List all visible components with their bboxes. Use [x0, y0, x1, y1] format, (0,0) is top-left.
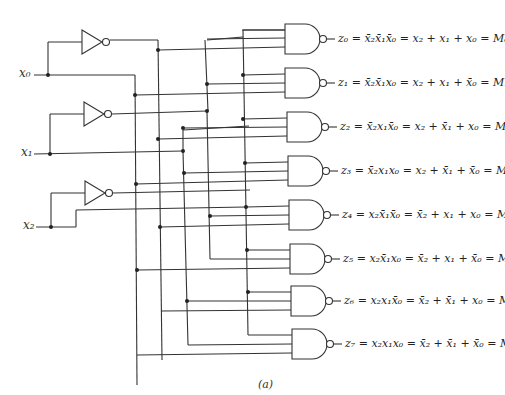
output-equation-z2: z₂ = x̄₂x₁x̄₀ = x₂ + x̄₁ + x₀ = M₂ [340, 121, 505, 133]
inverter-x1 [84, 102, 112, 126]
nand-gate-5 [290, 244, 340, 274]
input-label-x0: x₀ [19, 66, 31, 80]
bus-rails [183, 30, 285, 345]
input-x1-wiring [34, 114, 183, 154]
output-equation-z5: z₅ = x₂x̄₁x₀ = x̄₂ + x₁ + x̄₀ = M₅ [343, 253, 505, 265]
input-x2-wiring [36, 193, 246, 227]
nand-gate-6 [291, 286, 341, 316]
output-equation-z1: z₁ = x̄₂x̄₁x₀ = x₂ + x₁ + x̄₀ = M₁ [338, 77, 505, 89]
nand-gate-1 [285, 68, 335, 98]
nand-gate-4 [289, 200, 339, 230]
nand-gate-0 [285, 24, 335, 54]
output-equation-z6: z₆ = x₂x₁x̄₀ = x̄₂ + x̄₁ + x₀ = M₆ [344, 295, 505, 307]
decoder-circuit [0, 0, 505, 395]
junction-dots [46, 48, 250, 303]
input-label-x2: x₂ [23, 218, 35, 232]
nand-gate-2 [287, 112, 337, 142]
output-equation-z0: z₀ = x̄₂x̄₁x̄₀ = x₂ + x₁ + x₀ = M₀ [338, 33, 505, 45]
figure-caption: (a) [258, 378, 273, 391]
output-equation-z3: z₃ = x̄₂x₁x₀ = x₂ + x̄₁ + x̄₀ = M₃ [341, 165, 505, 177]
inverter-x2 [85, 181, 113, 205]
output-equation-z7: z₇ = x₂x₁x₀ = x̄₂ + x̄₁ + x̄₀ = M₇ [345, 338, 505, 350]
nand-gate-7 [292, 329, 342, 359]
nand-gate-3 [288, 156, 338, 186]
inverter-x0 [82, 30, 110, 54]
input-x0-wiring [34, 42, 137, 385]
nand-gates [285, 24, 342, 359]
input-label-x1: x₁ [21, 145, 33, 159]
output-equation-z4: z₄ = x₂x̄₁x̄₀ = x̄₂ + x₁ + x₀ = M₄ [342, 209, 505, 221]
